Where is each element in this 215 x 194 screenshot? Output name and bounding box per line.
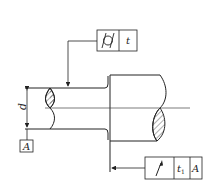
runout-frame: t1 A <box>112 157 202 179</box>
cylindricity-frame: t <box>68 30 137 86</box>
datum-a: A <box>20 129 33 152</box>
shaft-drawing: d A t t1 A <box>0 0 215 194</box>
runout-datum: A <box>191 163 199 174</box>
dimension-label: d <box>16 103 29 110</box>
dimension-d: d <box>16 90 29 127</box>
datum-label: A <box>22 141 30 152</box>
